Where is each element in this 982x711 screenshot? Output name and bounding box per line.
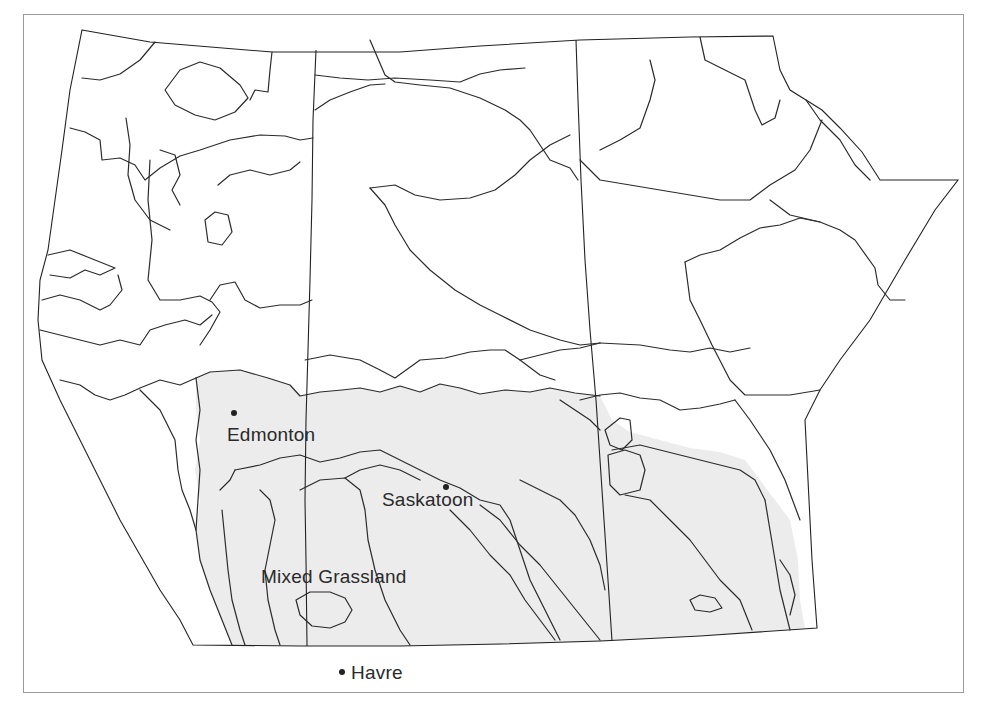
prairie-ecoregion-map <box>0 0 982 711</box>
havre-label: Havre <box>351 663 403 682</box>
edmonton-label: Edmonton <box>227 425 315 444</box>
mixed-grassland-label: Mixed Grassland <box>261 567 407 586</box>
edmonton-marker <box>231 410 237 416</box>
grassland-shaded-region <box>195 370 805 646</box>
saskatoon-label: Saskatoon <box>382 490 474 509</box>
havre-marker <box>339 669 345 675</box>
